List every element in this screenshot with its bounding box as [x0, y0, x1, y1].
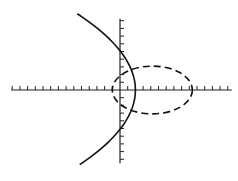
curves: [77, 14, 192, 165]
diagram-canvas: [0, 0, 238, 181]
coordinate-plane: [0, 0, 238, 181]
axes: [11, 19, 232, 164]
parabola-curve: [77, 14, 135, 165]
